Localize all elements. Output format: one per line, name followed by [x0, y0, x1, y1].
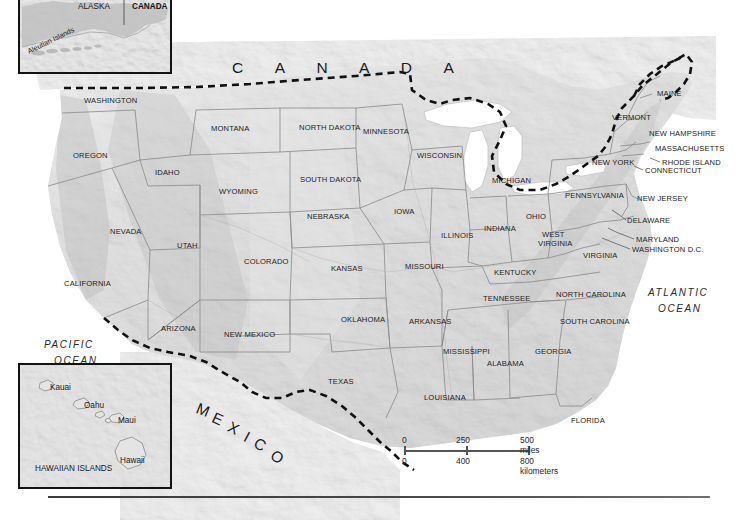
hawaii-inset-canvas [20, 365, 170, 487]
reference-map-united-states: C A N A D APACIFICOCEANATLANTICOCEANMEXI… [0, 0, 738, 520]
scale-miles-mid: 250 [456, 435, 470, 445]
scale-miles-min: 0 [402, 435, 407, 445]
scale-km-mid: 400 [456, 456, 470, 466]
map-scale-bar: 0 250 500 miles 0 400 800 kilometers [404, 437, 534, 469]
inset-map-alaska: ALASKACANADAAleutian Islands [18, 0, 172, 74]
scale-km-max: 800 kilometers [520, 456, 558, 476]
scale-km-min: 0 [402, 456, 407, 466]
scale-tick-mid [466, 446, 468, 455]
alaska-inset-canvas [20, 0, 170, 72]
footer-divider [48, 496, 710, 498]
scale-miles-max: 500 miles [520, 435, 540, 455]
scale-tick-0 [404, 446, 406, 455]
inset-map-hawaii: KauaiOahuMauiHawaiiHAWAIIAN ISLANDS [18, 363, 172, 489]
